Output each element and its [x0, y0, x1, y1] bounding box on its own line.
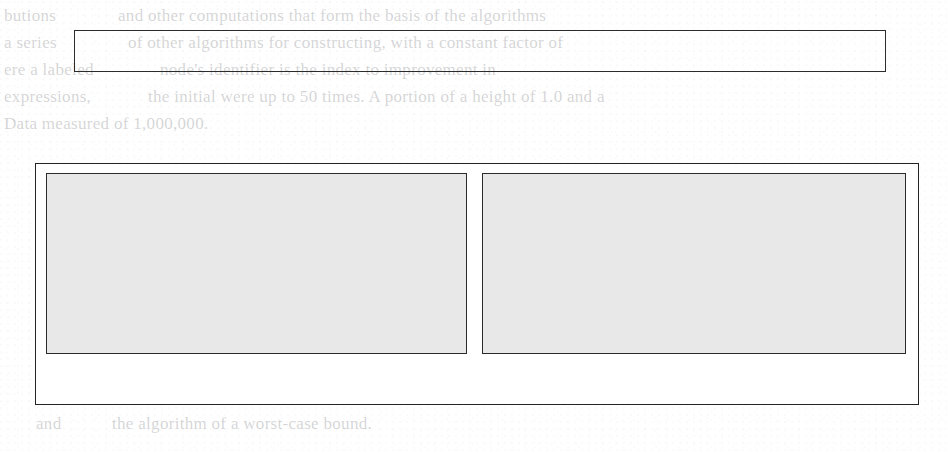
figure-sheet [0, 0, 948, 453]
panel-mu-m [46, 173, 467, 354]
subproblems-frame [35, 163, 919, 405]
panel-mu-r [482, 173, 906, 354]
sequence-array [74, 30, 886, 72]
